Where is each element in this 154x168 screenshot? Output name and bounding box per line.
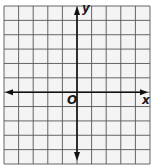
origin-label: O (67, 94, 77, 106)
x-axis-label: x (142, 94, 150, 106)
y-axis-label: y (82, 2, 90, 14)
coordinate-plane (0, 0, 154, 168)
